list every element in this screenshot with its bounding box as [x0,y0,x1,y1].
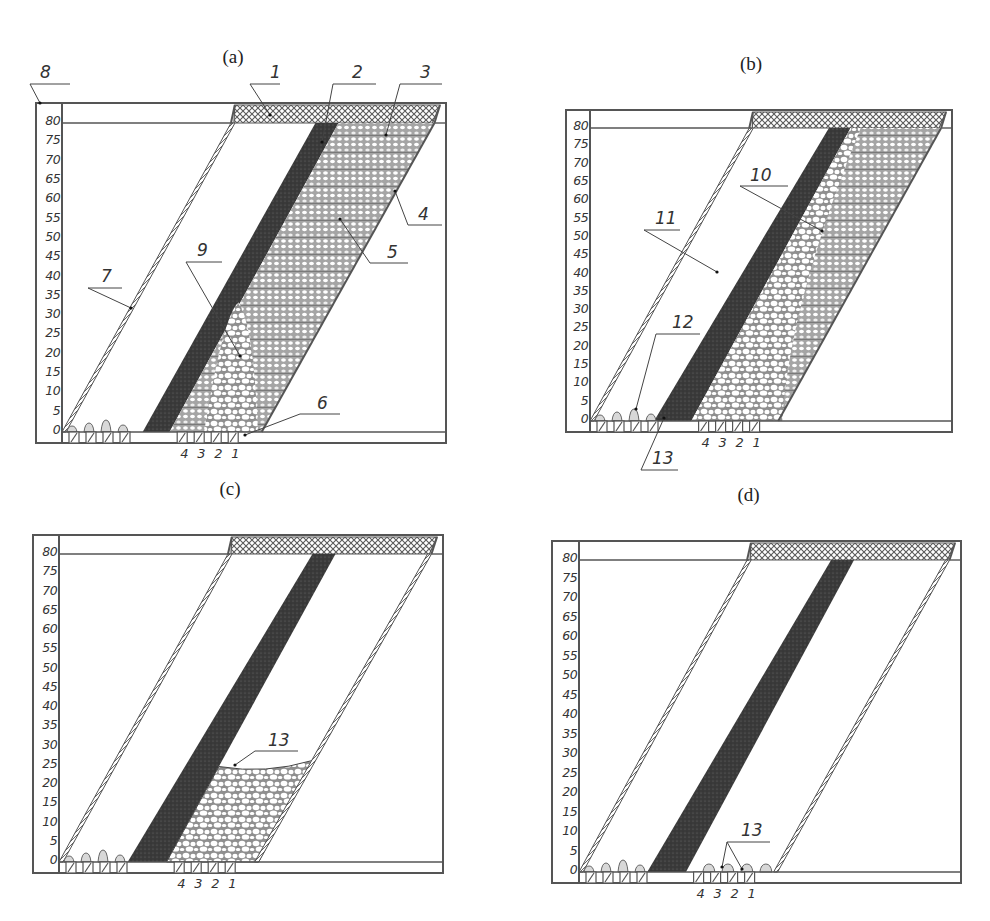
overburden-crosshatch [752,112,946,128]
scale-tick: 0 [53,422,61,437]
scale-tick: 25 [562,765,577,780]
scale-tick: 70 [562,589,577,604]
scale-tick: 20 [573,338,588,353]
callout-label: 13 [268,730,290,750]
drawpoint-label: 1 [231,446,239,461]
scale-tick: 5 [50,833,58,848]
panel-d: (d)4321807570656055504540353025201510501… [552,484,961,901]
panel-c: (c)4321807570656055504540353025201510501… [33,478,443,891]
scale-tick: 5 [53,403,61,418]
scale-tick: 40 [562,706,577,721]
drawpoint-left [100,862,110,873]
drawpoint-label: 2 [736,435,744,450]
scale-tick: 20 [562,784,577,799]
scale-tick: 60 [42,621,57,636]
callout: 13 [641,416,678,470]
remnant-mound [84,423,94,432]
drawpoint-label: 4 [177,876,185,891]
drawpoint-label: 2 [731,886,739,901]
scale-tick: 75 [42,563,57,578]
callout: 11 [644,208,719,274]
scale-tick: 15 [45,364,60,379]
callout: 4 [393,189,442,225]
drawpoint-3 [716,421,726,432]
scale-tick: 75 [45,132,60,147]
scale-tick: 5 [570,843,578,858]
callout-label: 6 [317,393,328,413]
scale-tick: 20 [42,775,57,790]
figure-canvas: (a)4321807570656055504540353025201510508… [0,0,990,921]
scale-tick: 35 [562,726,577,741]
scale-tick: 55 [573,210,588,225]
scale-tick: 50 [42,660,57,675]
callout-label: 12 [672,312,694,332]
scale-tick: 10 [42,814,57,829]
remnant-mound [601,863,611,872]
drawpoint-2 [211,432,221,443]
callout-label: 9 [197,240,208,260]
leader-dot [720,865,723,868]
scale-tick: 15 [562,804,577,819]
leader-dot [38,101,41,104]
remnant-mound [115,855,125,862]
scale-tick: 45 [562,687,577,702]
scale-tick: 55 [42,640,57,655]
drawpoint-label: 1 [228,876,236,891]
scale-tick: 70 [42,583,57,598]
panel-title: (a) [222,46,243,68]
scale-tick: 80 [42,544,57,559]
scale-tick: 50 [573,228,588,243]
drawpoint-label: 1 [748,886,756,901]
scale-tick: 0 [570,862,578,877]
leader-dot [740,867,743,870]
scale-tick: 80 [45,113,60,128]
leader-dot [820,229,823,232]
drawpoint-1 [225,862,235,873]
scale-tick: 30 [45,306,60,321]
footwall-line [255,554,432,862]
scale-tick: 40 [42,698,57,713]
drawpoint-label: 3 [194,876,202,891]
drawpoint-left [69,432,79,443]
leader-dot [384,133,387,136]
scale-tick: 35 [42,717,57,732]
leader-dot [268,113,271,116]
scale-tick: 60 [45,190,60,205]
remnant-mound [81,853,91,862]
leader-line [722,842,727,867]
scale-tick: 45 [42,679,57,694]
scale-tick: 65 [42,602,57,617]
scale-tick: 30 [42,737,57,752]
panel-a: (a)4321807570656055504540353025201510508… [30,46,446,461]
scale-tick: 40 [45,268,60,283]
drawpoint-label: 3 [714,886,722,901]
leader-dot [320,140,323,143]
scale-tick: 25 [45,325,60,340]
overburden-crosshatch [750,543,955,560]
drawpoint-left [66,862,76,873]
drawpoint-left [620,872,630,883]
remnant-mound [98,850,108,862]
leader-line [235,751,255,765]
callout: 7 [88,266,133,310]
callout-label: 7 [101,266,112,286]
scale-tick: 40 [573,265,588,280]
scale-tick: 65 [573,173,588,188]
scale-tick: 70 [573,155,588,170]
callout-label: 1 [270,62,281,82]
scale-tick: 35 [573,283,588,298]
panel-b: (b)4321807570656055504540353025201510501… [566,53,952,470]
drawpoint-left [648,421,658,432]
drawpoint-left [86,432,96,443]
leader-dot [233,763,236,766]
leader-line [88,288,131,308]
callout-label: 4 [418,204,429,224]
scale-tick: 45 [45,248,60,263]
scale-tick: 70 [45,152,60,167]
remnant-mound [703,864,715,872]
drawpoint-3 [711,872,721,883]
drawpoint-label: 4 [697,886,705,901]
remnant-mound [101,420,111,432]
drawpoint-left [597,421,607,432]
scale-tick: 75 [573,136,588,151]
